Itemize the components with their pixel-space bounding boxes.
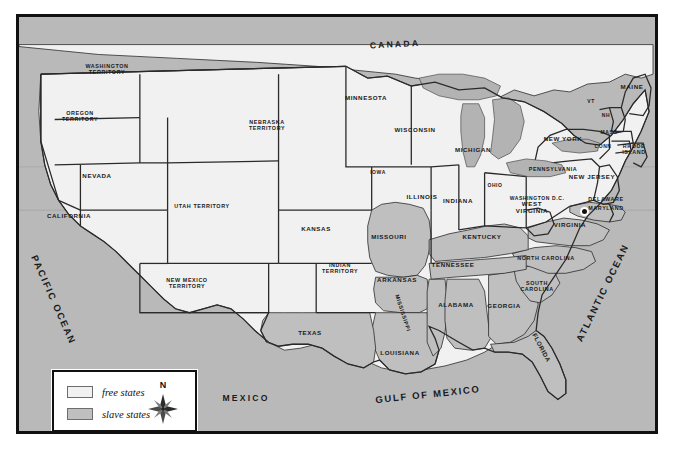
legend-label-slave-states: slave states (102, 409, 150, 420)
legend-swatch-slave-states (67, 408, 93, 420)
compass-north-label: N (145, 380, 181, 390)
legend-label-free-states: free states (102, 387, 144, 398)
compass-star-icon (145, 391, 181, 427)
map-legend: free states slave states N (52, 370, 197, 432)
us-map-svg: .free{fill:#f1f1f1;stroke:#2a2a2a;stroke… (19, 17, 655, 431)
compass-rose: N (145, 380, 181, 430)
washington-dc-marker (580, 207, 589, 216)
legend-row-slave: slave states (67, 408, 150, 420)
map-frame: .free{fill:#f1f1f1;stroke:#2a2a2a;stroke… (16, 14, 658, 434)
legend-swatch-free-states (67, 386, 93, 398)
legend-row-free: free states (67, 386, 144, 398)
